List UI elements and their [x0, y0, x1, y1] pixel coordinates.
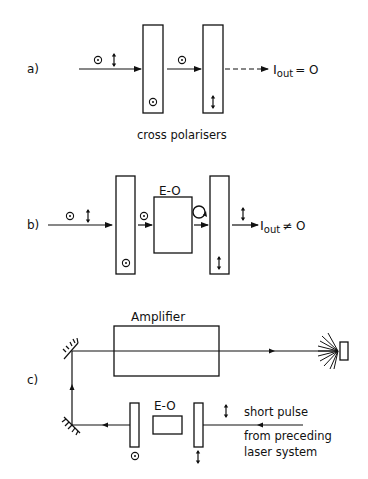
perpendicular-polarisation-icon — [149, 98, 156, 105]
panel-b: b) E-O Iout≠ O — [27, 176, 306, 274]
mirror-top — [63, 338, 78, 359]
vertical-polarisation-icon — [224, 404, 228, 418]
panel-a-label: a) — [27, 62, 39, 76]
beam-direction-arrow — [269, 349, 275, 354]
laser-isolation-diagram: a) Iout= O cross polarisers b) E-O — [0, 0, 368, 479]
vertical-polarisation-icon — [196, 450, 200, 464]
circular-polarisation-icon — [193, 206, 207, 218]
perpendicular-polarisation-icon — [178, 56, 185, 63]
cross-polarisers-caption: cross polarisers — [137, 128, 227, 142]
vertical-polarisation-icon — [86, 209, 90, 223]
mirror-bottom — [62, 417, 80, 435]
output-intensity-label: Iout≠ O — [260, 218, 306, 235]
beam-direction-arrow — [257, 423, 263, 428]
polariser-perpendicular — [130, 403, 139, 447]
perpendicular-polarisation-icon — [122, 259, 129, 266]
perpendicular-polarisation-icon — [140, 212, 147, 219]
electro-optic-cell — [154, 197, 192, 253]
perpendicular-polarisation-icon — [94, 56, 101, 63]
output-intensity-label: Iout= O — [273, 62, 319, 79]
eo-cell-label: E-O — [159, 184, 181, 198]
eo-cell-label: E-O — [154, 399, 176, 413]
perpendicular-polarisation-icon — [66, 212, 73, 219]
panel-c-label: c) — [27, 373, 38, 387]
vertical-polarisation-icon — [112, 53, 116, 67]
panel-b-label: b) — [27, 218, 39, 232]
input-pulse-caption: short pulse from preceding laser system — [244, 405, 335, 459]
target-with-ablation-rays — [318, 333, 338, 369]
beam-direction-arrow — [70, 384, 75, 390]
panel-c: c) Amplifier — [27, 310, 348, 464]
amplifier-label: Amplifier — [131, 310, 185, 324]
target — [340, 342, 348, 360]
panel-a: a) Iout= O cross polarisers — [27, 25, 319, 142]
beam-direction-arrow — [102, 423, 108, 428]
perpendicular-polarisation-icon — [131, 452, 138, 459]
vertical-polarisation-icon — [241, 207, 245, 221]
polariser-vertical — [194, 403, 203, 447]
electro-optic-cell — [153, 416, 182, 434]
